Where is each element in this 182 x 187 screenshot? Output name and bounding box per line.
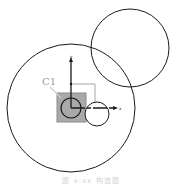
diagram-canvas: C1 x y xyxy=(0,0,182,187)
x-axis-arrow-icon xyxy=(113,106,118,110)
y-axis-label: y xyxy=(70,54,73,59)
upper-right-circle xyxy=(91,9,169,87)
c1-label: C1 xyxy=(42,76,56,87)
figure-caption: 图 x-xx 构造图 xyxy=(0,175,182,185)
y-axis-dot xyxy=(70,83,72,85)
x-axis-label: x xyxy=(119,106,122,111)
right-small-circle xyxy=(85,102,109,126)
